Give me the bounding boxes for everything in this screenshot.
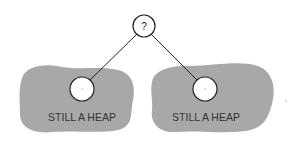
- left-child-dot: [81, 88, 82, 89]
- left-subtree-label: STILL A HEAP: [48, 111, 116, 123]
- heap-diagram: ? STILL A HEAP STILL A HEAP: [0, 0, 293, 143]
- right-subtree-label: STILL A HEAP: [172, 111, 240, 123]
- right-child-dot: [204, 88, 205, 89]
- stray-mark: [285, 100, 286, 101]
- root-node-label: ?: [141, 21, 147, 32]
